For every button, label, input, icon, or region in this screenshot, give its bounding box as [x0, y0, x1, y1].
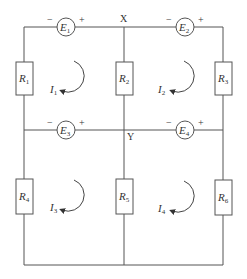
- e3-neg-sign: −: [47, 117, 53, 128]
- resistor-r1: R1: [16, 62, 33, 95]
- e4-neg-sign: −: [166, 117, 172, 128]
- e3-pos-sign: +: [79, 117, 85, 128]
- e1-neg-sign: −: [47, 14, 53, 25]
- resistor-r4: R4: [16, 179, 33, 214]
- clockwise-arrow-icon: [172, 181, 194, 212]
- source-e4: − E4 +: [166, 117, 204, 139]
- resistor-r2: R2: [116, 62, 133, 95]
- clockwise-arrow-icon: [172, 61, 194, 92]
- loop-current-i4: I4: [157, 181, 194, 216]
- node-x-label: X: [120, 13, 128, 24]
- resistor-r5: R5: [116, 179, 133, 214]
- e1-pos-sign: +: [79, 14, 85, 25]
- resistor-r6: R6: [215, 180, 232, 215]
- loop-current-i3: I3: [49, 180, 84, 215]
- circuit-diagram: X Y − E1 + − E2 + − E3 + − E4 + R1 R2 R3: [0, 0, 247, 279]
- source-e3: − E3 +: [47, 117, 85, 139]
- source-e1: − E1 +: [47, 14, 85, 36]
- i1-label: I1: [49, 83, 58, 97]
- clockwise-arrow-icon: [62, 61, 84, 92]
- e2-pos-sign: +: [198, 14, 204, 25]
- e4-pos-sign: +: [198, 117, 204, 128]
- clockwise-arrow-icon: [62, 180, 84, 211]
- resistor-r3: R3: [215, 62, 232, 95]
- i3-label: I3: [49, 201, 58, 215]
- i2-label: I2: [157, 83, 166, 97]
- node-y-label: Y: [127, 131, 134, 142]
- e2-neg-sign: −: [166, 14, 172, 25]
- loop-current-i1: I1: [49, 61, 84, 97]
- loop-current-i2: I2: [157, 61, 194, 97]
- i4-label: I4: [157, 202, 166, 216]
- source-e2: − E2 +: [166, 14, 204, 36]
